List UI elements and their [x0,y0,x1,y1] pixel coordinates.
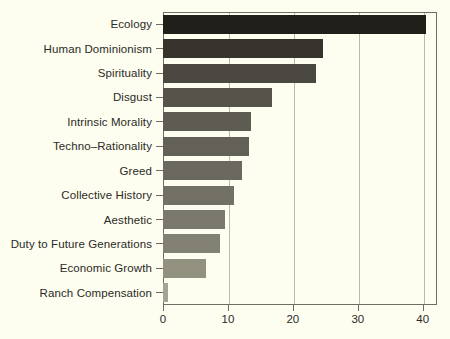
category-label: Spirituality [98,67,152,79]
category-tick-5: Techno–Rationality [53,137,163,156]
category-tick-4: Intrinsic Morality [67,112,163,131]
bar-ranch-compensation[interactable] [163,283,168,302]
category-tick-2: Spirituality [98,64,163,83]
bar-row [163,186,234,205]
category-tick-6: Greed [120,161,163,180]
bar-row [163,15,426,34]
bar-row [163,283,168,302]
x-tick-label: 40 [416,313,429,325]
category-label: Economic Growth [60,262,152,274]
x-tick-mark-30 [358,305,359,311]
x-tick-mark-20 [293,305,294,311]
category-tick-7: Collective History [61,186,163,205]
category-tick-8: Aesthetic [104,210,163,229]
category-label: Ecology [110,18,152,30]
bar-disgust[interactable] [163,88,272,107]
bar-ecology[interactable] [163,15,426,34]
x-tick-mark-0 [163,305,164,311]
category-tick-10: Economic Growth [60,259,163,278]
category-tick-mark [156,73,163,74]
bar-techno-rationality[interactable] [163,137,249,156]
x-tick-label: 0 [160,313,166,325]
category-tick-mark [156,146,163,147]
bar-row [163,137,249,156]
category-tick-mark [156,268,163,269]
bar-aesthetic[interactable] [163,210,225,229]
bars-group [163,12,437,305]
category-tick-mark [156,243,163,244]
x-tick-label: 10 [222,313,235,325]
bar-human-dominionism[interactable] [163,39,323,58]
category-label: Ranch Compensation [40,287,152,299]
category-label: Greed [120,165,152,177]
category-label: Disgust [113,91,152,103]
bar-collective-history[interactable] [163,186,234,205]
category-tick-mark [156,97,163,98]
bar-chart: EcologyHuman DominionismSpiritualityDisg… [0,0,450,339]
bar-intrinsic-morality[interactable] [163,112,251,131]
category-tick-11: Ranch Compensation [40,283,163,302]
category-tick-mark [156,219,163,220]
bar-row [163,259,206,278]
category-tick-mark [156,121,163,122]
bar-spirituality[interactable] [163,64,316,83]
x-tick-mark-10 [228,305,229,311]
x-tick-label: 20 [286,313,299,325]
bar-row [163,39,323,58]
category-tick-mark [156,292,163,293]
category-tick-mark [156,48,163,49]
category-label: Collective History [61,189,152,201]
bar-row [163,88,272,107]
category-label: Techno–Rationality [53,140,152,152]
category-axis: EcologyHuman DominionismSpiritualityDisg… [0,12,163,305]
bar-economic-growth[interactable] [163,259,206,278]
bar-row [163,234,220,253]
category-tick-1: Human Dominionism [44,39,163,58]
category-label: Aesthetic [104,214,152,226]
category-tick-0: Ecology [110,15,163,34]
bar-row [163,112,251,131]
category-tick-mark [156,170,163,171]
category-label: Intrinsic Morality [67,116,152,128]
category-tick-3: Disgust [113,88,163,107]
category-tick-mark [156,24,163,25]
bar-row [163,210,225,229]
bar-row [163,161,242,180]
x-tick-mark-40 [423,305,424,311]
category-label: Duty to Future Generations [11,238,152,250]
category-tick-9: Duty to Future Generations [11,234,163,253]
bar-greed[interactable] [163,161,242,180]
value-axis: 010203040 [163,305,437,339]
bar-duty-to-future-generations[interactable] [163,234,220,253]
category-tick-mark [156,195,163,196]
bar-row [163,64,316,83]
x-tick-label: 30 [351,313,364,325]
category-label: Human Dominionism [44,43,152,55]
